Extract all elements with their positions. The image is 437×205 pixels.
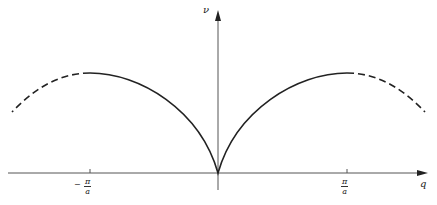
- dispersion-diagram: [0, 0, 437, 205]
- dispersion-curve-dashed-right: [347, 73, 425, 112]
- y-axis-arrow-icon: [215, 10, 221, 21]
- tick-label-pi-over-a: π a: [341, 177, 348, 196]
- tick-label-neg-pi-over-a: − π a: [76, 177, 91, 196]
- x-axis-arrow-icon: [417, 170, 428, 176]
- x-axis-label: q: [420, 178, 426, 189]
- dispersion-curve-dashed-left: [12, 73, 90, 112]
- y-axis-label: ν: [203, 4, 209, 15]
